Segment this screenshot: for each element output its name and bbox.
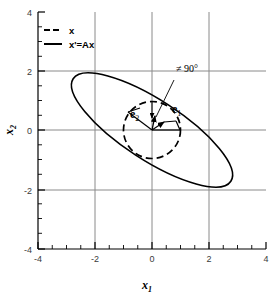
x-tick-label: 4 [263, 254, 268, 264]
svg-text:x1: x1 [141, 278, 152, 294]
y-axis-major-ticks [38, 12, 45, 249]
y-tick-label: -4 [24, 245, 32, 255]
y-tick-label: -2 [24, 186, 32, 196]
vector-label-e2: e2 [130, 107, 139, 123]
legend: x x'=Ax [44, 25, 95, 50]
y-axis-title-base: x [2, 129, 16, 136]
x-tick-label: -4 [34, 254, 42, 264]
vector-e1-link [164, 121, 176, 122]
x-tick-label: 0 [149, 254, 154, 264]
x-tick-labels: -4 -2 0 2 4 [34, 254, 269, 264]
legend-entry-x[interactable]: x [44, 25, 75, 36]
y-tick-label: 4 [27, 8, 32, 18]
y-tick-label: 2 [27, 67, 32, 77]
x-tick-label: 2 [206, 254, 211, 264]
e2-label-sub: 2 [135, 114, 139, 123]
y-tick-labels: 4 2 0 -2 -4 [24, 8, 32, 255]
y-axis-title: x2 [2, 125, 18, 136]
y-axis-title-sub: 2 [9, 125, 18, 130]
figure-eigen-transform: -4 -2 0 2 4 4 2 0 -2 -4 x1 x2 [0, 0, 278, 297]
e1-label-sub: 1 [177, 109, 181, 118]
chart-svg: -4 -2 0 2 4 4 2 0 -2 -4 x1 x2 [0, 0, 278, 297]
x-axis-major-ticks [38, 242, 266, 249]
legend-label-ax: x'=Ax [69, 39, 95, 50]
x-axis-title-base: x [141, 278, 148, 292]
svg-text:e2: e2 [130, 107, 139, 123]
annotation-angle-label: ≠ 90° [176, 63, 198, 74]
x-axis-title-sub: 1 [148, 285, 152, 294]
x-tick-label: -2 [91, 254, 99, 264]
legend-label-x: x [69, 25, 75, 36]
x-axis-title: x1 [141, 278, 152, 294]
vector-label-e1: e1 [172, 102, 181, 118]
legend-entry-ax[interactable]: x'=Ax [44, 39, 95, 50]
svg-text:e1: e1 [172, 102, 181, 118]
y-tick-label: 0 [27, 126, 32, 136]
svg-text:x2: x2 [2, 125, 18, 136]
